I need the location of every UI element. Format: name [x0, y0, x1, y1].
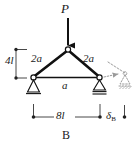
pin-support-left [26, 80, 41, 94]
joint-apex [65, 47, 70, 52]
member-bottom-label: a [62, 80, 68, 91]
truss-figure: P 4l 2a 2a a 8l δB B [0, 0, 136, 148]
deflection-subscript: B [111, 115, 116, 123]
deflection-label: δB [106, 110, 116, 121]
truss-diagram-svg [0, 0, 136, 148]
span-dimension-label: 8l [56, 110, 65, 121]
dimension-span-8l [32, 104, 102, 119]
height-dimension-label: 4l [5, 55, 14, 66]
dimension-deflection-delta-b [123, 105, 127, 119]
figure-caption: B [62, 129, 70, 141]
dimension-height-4l [14, 48, 27, 80]
load-label-P: P [61, 2, 69, 15]
deformed-shape-ghost [104, 62, 131, 89]
member-right-label: 2a [83, 53, 94, 64]
member-left-label: 2a [31, 53, 42, 64]
roller-support-right [93, 80, 107, 94]
